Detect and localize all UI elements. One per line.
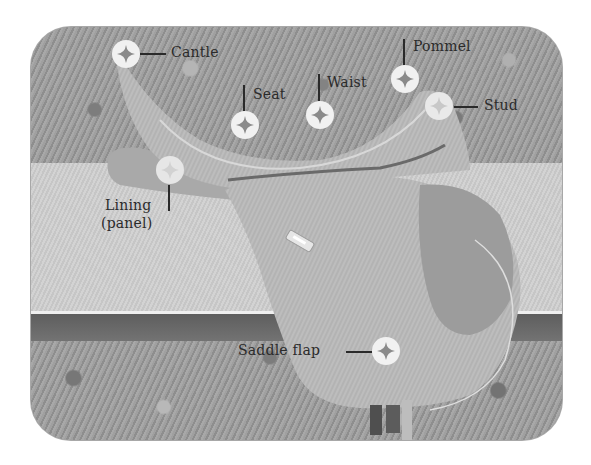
saddle-illustration: [0, 0, 591, 465]
label-saddle-flap: Saddle flap: [238, 342, 320, 358]
waist-leader-line: [318, 74, 320, 101]
stud-marker: [425, 92, 453, 120]
label-lining-panel: (panel): [101, 215, 152, 231]
star-icon: [395, 69, 415, 89]
label-seat: Seat: [253, 86, 286, 102]
lining-marker: [156, 156, 184, 184]
saddle-flap-leader-line: [346, 351, 372, 353]
star-icon: [310, 105, 330, 125]
pommel-leader-line: [403, 39, 405, 65]
cantle-marker: [112, 40, 140, 68]
label-lining: Lining: [105, 197, 151, 213]
star-icon: [235, 115, 255, 135]
star-icon: [160, 160, 180, 180]
star-icon: [116, 44, 136, 64]
pommel-marker: [391, 65, 419, 93]
saddle-flap-marker: [372, 337, 400, 365]
label-stud: Stud: [484, 97, 518, 113]
label-waist: Waist: [327, 74, 367, 90]
star-icon: [429, 96, 449, 116]
label-pommel: Pommel: [413, 38, 471, 54]
lining-leader-line: [168, 185, 170, 211]
waist-marker: [306, 101, 334, 129]
seat-leader-line: [243, 85, 245, 111]
label-cantle: Cantle: [171, 44, 219, 60]
stud-leader-line: [454, 106, 478, 108]
cantle-leader-line: [140, 53, 166, 55]
seat-marker: [231, 111, 259, 139]
star-icon: [376, 341, 396, 361]
